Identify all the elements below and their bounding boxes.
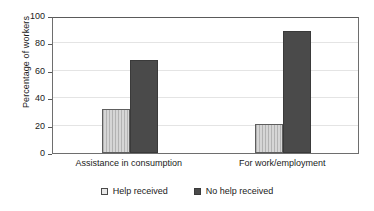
x-axis-category-label: For work/employment [239,158,326,168]
y-axis-tick-label: 100 [30,11,45,21]
light-square-swatch [101,188,108,195]
plot-area [52,17,359,154]
bar[interactable] [255,124,283,153]
y-axis-tick-label: 40 [35,93,45,103]
y-axis-tick-mark [48,154,52,155]
y-axis-tick-label: 60 [35,66,45,76]
bar[interactable] [283,31,311,153]
x-axis-category-labels: Assistance in consumptionFor work/employ… [52,158,359,174]
dark-square-swatch [194,188,201,195]
y-axis-tick-label: 20 [35,121,45,131]
y-axis-tick-label: 80 [35,38,45,48]
chart-legend: Help receivedNo help received [0,186,374,196]
bars-layer [53,18,358,153]
bar-group [53,18,207,153]
legend-item-label: Help received [113,186,168,196]
bar[interactable] [102,109,130,153]
x-axis-category-label: Assistance in consumption [75,158,182,168]
bar-chart-figure: Percentage of workers 020406080100 Assis… [0,0,374,211]
bar-group [207,18,361,153]
bar[interactable] [130,60,158,153]
legend-item[interactable]: Help received [101,186,168,196]
y-axis-ticks: 020406080100 [0,17,52,154]
legend-item[interactable]: No help received [194,186,274,196]
legend-item-label: No help received [206,186,274,196]
y-axis-tick-label: 0 [40,148,45,158]
